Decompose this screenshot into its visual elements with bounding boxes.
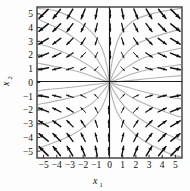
y-tick-label: −2: [23, 105, 33, 115]
x-tick-label: 2: [133, 160, 138, 170]
y-axis-title-text: x: [0, 81, 11, 87]
x-tick-label: −3: [65, 160, 75, 170]
y-tick-label: 4: [28, 23, 33, 33]
x-tick-label: −1: [91, 160, 101, 170]
y-tick-label: −4: [23, 133, 33, 143]
x-tick-label: 0: [107, 160, 112, 170]
y-tick-label: 1: [28, 64, 33, 74]
y-tick-label: 2: [28, 50, 33, 60]
y-tick-label: −5: [23, 147, 33, 157]
y-tick-label: 5: [28, 9, 33, 19]
x-axis-title-subscript: 1: [100, 181, 103, 188]
x-tick-label: 1: [120, 160, 125, 170]
x-axis-title: x 1: [92, 175, 103, 188]
phase-portrait-plot: −5−4−3−2−1012345 543210−1−2−3−4−5 x 1 x …: [0, 0, 190, 191]
x-tick-label: 3: [147, 160, 152, 170]
x-tick-label: −5: [39, 160, 49, 170]
y-axis-title-subscript: 2: [6, 76, 13, 79]
x-axis-title-text: x: [92, 175, 98, 186]
y-tick-label: 0: [28, 78, 33, 88]
x-tick-label: 5: [173, 160, 178, 170]
y-tick-label: −3: [23, 119, 33, 129]
x-tick-label: −4: [52, 160, 62, 170]
x-tick-label: −2: [78, 160, 88, 170]
phase-portrait-figure: −5−4−3−2−1012345 543210−1−2−3−4−5 x 1 x …: [0, 0, 190, 191]
x-tick-label: 4: [160, 160, 165, 170]
y-tick-label: −1: [23, 92, 33, 102]
y-axis-title: x 2: [0, 76, 13, 87]
y-tick-label: 3: [28, 37, 33, 47]
